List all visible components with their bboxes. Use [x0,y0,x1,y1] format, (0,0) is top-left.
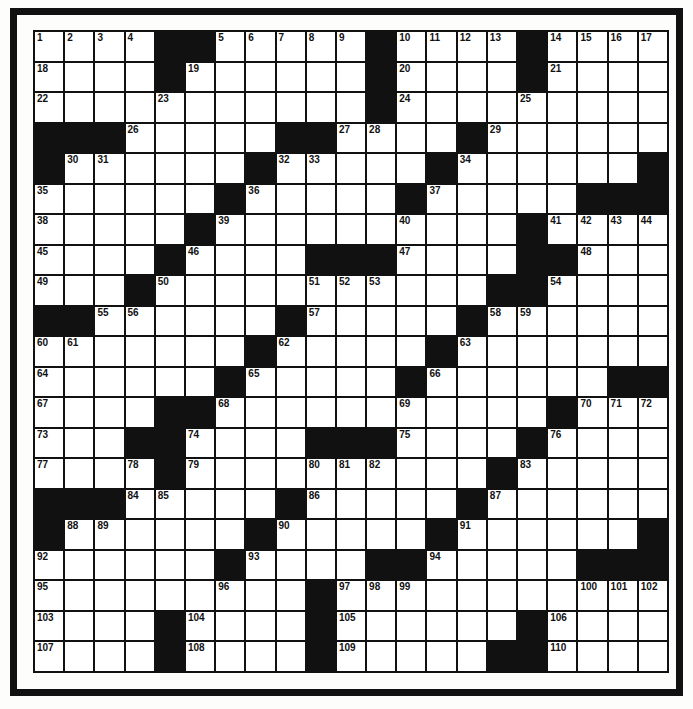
grid-cell[interactable] [277,429,305,458]
grid-cell[interactable]: 91 [458,520,486,549]
grid-cell[interactable] [367,520,395,549]
grid-cell[interactable] [427,459,455,488]
grid-cell[interactable] [397,612,425,641]
grid-cell[interactable] [458,63,486,92]
grid-cell[interactable]: 51 [307,276,335,305]
grid-cell[interactable]: 24 [397,93,425,122]
grid-cell[interactable] [427,124,455,153]
grid-cell[interactable]: 23 [156,93,184,122]
grid-cell[interactable]: 66 [427,368,455,397]
grid-cell[interactable]: 108 [186,642,214,671]
grid-cell[interactable]: 105 [337,612,365,641]
grid-cell[interactable] [307,551,335,580]
grid-cell[interactable] [277,398,305,427]
grid-cell[interactable] [488,337,516,366]
grid-cell[interactable] [95,642,123,671]
grid-cell[interactable] [578,429,606,458]
grid-cell[interactable] [65,63,93,92]
grid-cell[interactable] [578,520,606,549]
grid-cell[interactable] [458,398,486,427]
grid-cell[interactable] [427,581,455,610]
grid-cell[interactable]: 39 [216,215,244,244]
grid-cell[interactable] [548,520,576,549]
grid-cell[interactable]: 34 [458,154,486,183]
grid-cell[interactable]: 73 [35,429,63,458]
grid-cell[interactable] [427,429,455,458]
grid-cell[interactable]: 50 [156,276,184,305]
grid-cell[interactable] [578,276,606,305]
grid-cell[interactable] [488,215,516,244]
grid-cell[interactable] [367,154,395,183]
grid-cell[interactable] [307,398,335,427]
grid-cell[interactable]: 22 [35,93,63,122]
grid-cell[interactable] [578,612,606,641]
grid-cell[interactable]: 75 [397,429,425,458]
grid-cell[interactable] [427,276,455,305]
grid-cell[interactable] [518,368,546,397]
grid-cell[interactable] [488,246,516,275]
grid-cell[interactable] [337,551,365,580]
grid-cell[interactable]: 101 [609,581,637,610]
grid-cell[interactable] [277,642,305,671]
grid-cell[interactable]: 12 [458,32,486,61]
grid-cell[interactable] [458,215,486,244]
grid-cell[interactable]: 15 [578,32,606,61]
grid-cell[interactable] [367,215,395,244]
grid-cell[interactable] [277,63,305,92]
grid-cell[interactable] [609,520,637,549]
grid-cell[interactable] [548,154,576,183]
grid-cell[interactable] [488,612,516,641]
grid-cell[interactable]: 72 [639,398,667,427]
grid-cell[interactable]: 11 [427,32,455,61]
grid-cell[interactable] [548,368,576,397]
grid-cell[interactable] [578,642,606,671]
grid-cell[interactable] [186,337,214,366]
grid-cell[interactable] [367,490,395,519]
grid-cell[interactable] [126,337,154,366]
grid-cell[interactable] [458,459,486,488]
grid-cell[interactable] [156,154,184,183]
grid-cell[interactable] [246,215,274,244]
grid-cell[interactable] [95,581,123,610]
grid-cell[interactable] [367,642,395,671]
grid-cell[interactable] [488,520,516,549]
grid-cell[interactable]: 21 [548,63,576,92]
grid-cell[interactable] [397,459,425,488]
grid-cell[interactable]: 69 [397,398,425,427]
grid-cell[interactable] [186,93,214,122]
grid-cell[interactable] [639,642,667,671]
grid-cell[interactable] [337,63,365,92]
grid-cell[interactable]: 88 [65,520,93,549]
grid-cell[interactable] [337,215,365,244]
grid-cell[interactable] [548,93,576,122]
grid-cell[interactable] [277,459,305,488]
grid-cell[interactable] [518,337,546,366]
grid-cell[interactable] [126,612,154,641]
grid-cell[interactable] [126,551,154,580]
grid-cell[interactable] [639,490,667,519]
grid-cell[interactable] [397,642,425,671]
grid-cell[interactable] [639,63,667,92]
grid-cell[interactable] [337,307,365,336]
grid-cell[interactable] [488,368,516,397]
grid-cell[interactable]: 8 [307,32,335,61]
grid-cell[interactable] [95,551,123,580]
grid-cell[interactable]: 29 [488,124,516,153]
grid-cell[interactable] [397,124,425,153]
grid-cell[interactable] [277,185,305,214]
grid-cell[interactable]: 14 [548,32,576,61]
grid-cell[interactable]: 84 [126,490,154,519]
grid-cell[interactable] [65,93,93,122]
grid-cell[interactable] [246,307,274,336]
grid-cell[interactable]: 61 [65,337,93,366]
grid-cell[interactable]: 97 [337,581,365,610]
grid-cell[interactable] [488,154,516,183]
grid-cell[interactable] [609,276,637,305]
grid-cell[interactable]: 3 [95,32,123,61]
grid-cell[interactable] [156,307,184,336]
grid-cell[interactable]: 16 [609,32,637,61]
grid-cell[interactable] [548,307,576,336]
grid-cell[interactable] [126,63,154,92]
grid-cell[interactable] [65,246,93,275]
grid-cell[interactable] [548,459,576,488]
